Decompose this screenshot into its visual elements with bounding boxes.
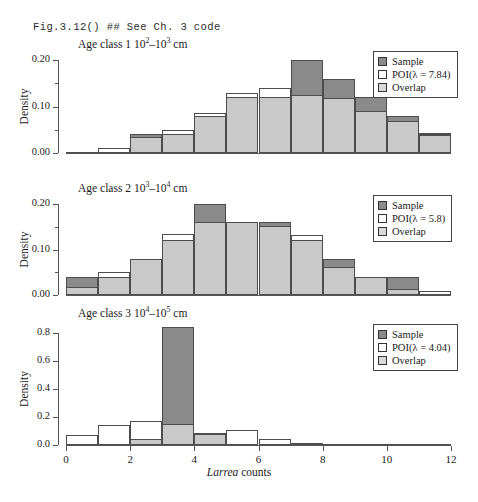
- y-axis-tick: [53, 153, 58, 154]
- legend-swatch-sample-icon: [378, 201, 387, 210]
- histogram-bar-overlap: [259, 97, 291, 153]
- x-axis-tick-label: 4: [174, 453, 214, 465]
- legend-item-label: POI(λ = 7.84): [392, 69, 451, 80]
- legend-item: Overlap: [378, 81, 451, 94]
- histogram-bar-overlap: [194, 116, 226, 153]
- histogram-bar-overlap: [162, 424, 194, 445]
- chart-panel-age-class-3: Age class 3 104–105 cmDensity0.00.20.40.…: [0, 305, 478, 470]
- x-axis-tick: [194, 446, 195, 451]
- y-axis-tick: [53, 295, 58, 296]
- legend-swatch-poi-icon: [378, 343, 387, 352]
- y-axis-tick-label: 0.10: [6, 243, 50, 254]
- histogram-bar-poi: [98, 425, 130, 445]
- legend-swatch-overlap-icon: [378, 356, 387, 365]
- legend-item: Sample: [378, 55, 451, 68]
- y-axis-minor-tick: [55, 227, 58, 228]
- y-axis-tick: [53, 417, 58, 418]
- legend: SamplePOI(λ = 5.8)Overlap: [373, 195, 452, 242]
- histogram-bar-overlap: [323, 267, 355, 295]
- legend-item: POI(λ = 5.8): [378, 212, 445, 225]
- legend-item-label: Overlap: [392, 355, 426, 366]
- legend-item-label: POI(λ = 5.8): [392, 213, 445, 224]
- y-axis-minor-tick: [55, 272, 58, 273]
- x-axis-title: Larrea counts: [0, 466, 478, 478]
- histogram-bar-overlap: [66, 287, 98, 295]
- histogram-bar-overlap: [98, 277, 130, 295]
- y-axis-minor-tick: [55, 130, 58, 131]
- y-axis-tick-label: 0.6: [6, 354, 50, 365]
- histogram-bar-overlap: [355, 111, 387, 153]
- x-axis-tick: [130, 446, 131, 451]
- legend: SamplePOI(λ = 7.84)Overlap: [373, 51, 458, 98]
- y-axis-tick-label: 0.00: [6, 288, 50, 299]
- legend-item-label: Overlap: [392, 226, 426, 237]
- legend-item-label: POI(λ = 4.04): [392, 342, 451, 353]
- code-header-text: Fig.3.12() ## See Ch. 3 code: [33, 21, 221, 33]
- histogram-bar-poi: [66, 435, 98, 445]
- y-axis-tick-label: 0.20: [6, 53, 50, 64]
- histogram-bar-overlap: [194, 222, 226, 295]
- x-axis-tick-label: 0: [46, 453, 86, 465]
- histogram-bar-overlap: [259, 226, 291, 295]
- y-axis-tick: [53, 204, 58, 205]
- histogram-bar-overlap: [419, 135, 451, 153]
- panel-title: Age class 1 102–103 cm: [78, 38, 187, 50]
- histogram-bar-poi: [226, 430, 258, 445]
- x-axis-tick-label: 2: [110, 453, 150, 465]
- y-axis-tick: [53, 445, 58, 446]
- x-axis-title-rest: counts: [238, 466, 271, 478]
- y-axis-tick: [53, 389, 58, 390]
- y-axis-tick-label: 0.2: [6, 410, 50, 421]
- y-axis-tick-label: 0.00: [6, 146, 50, 157]
- y-axis-tick: [53, 333, 58, 334]
- legend-item: Overlap: [378, 354, 451, 367]
- y-axis-tick: [53, 250, 58, 251]
- histogram-bar-overlap: [194, 434, 226, 445]
- x-axis-line: [66, 295, 451, 296]
- histogram-bar-overlap: [355, 277, 387, 295]
- histogram-bar-overlap: [323, 98, 355, 153]
- legend-item-label: Overlap: [392, 82, 426, 93]
- panel-title: Age class 2 103–104 cm: [78, 182, 187, 194]
- legend-item: Sample: [378, 199, 445, 212]
- histogram-bar-overlap: [226, 97, 258, 153]
- legend: SamplePOI(λ = 4.04)Overlap: [373, 324, 458, 371]
- x-axis-tick: [387, 446, 388, 451]
- histogram-bar-overlap: [291, 95, 323, 153]
- x-axis-tick: [451, 446, 452, 451]
- x-axis-tick-label: 12: [431, 453, 471, 465]
- legend-item: POI(λ = 7.84): [378, 68, 451, 81]
- legend-swatch-poi-icon: [378, 214, 387, 223]
- y-axis-line: [58, 333, 59, 445]
- legend-swatch-overlap-icon: [378, 83, 387, 92]
- y-axis-line: [58, 60, 59, 153]
- histogram-bar-overlap: [387, 121, 419, 153]
- y-axis-tick: [53, 60, 58, 61]
- legend-item-label: Sample: [392, 56, 424, 67]
- legend-swatch-poi-icon: [378, 70, 387, 79]
- histogram-bar-overlap: [291, 240, 323, 295]
- legend-item: Overlap: [378, 225, 445, 238]
- legend-swatch-overlap-icon: [378, 227, 387, 236]
- x-axis-tick-label: 10: [367, 453, 407, 465]
- histogram-bar-overlap: [130, 259, 162, 295]
- y-axis-tick-label: 0.20: [6, 197, 50, 208]
- chart-panel-age-class-1: Age class 1 102–103 cmDensity0.000.100.2…: [0, 36, 478, 186]
- y-axis-line: [58, 204, 59, 295]
- y-axis-tick-label: 0.0: [6, 438, 50, 449]
- y-axis-tick-label: 0.10: [6, 100, 50, 111]
- x-axis-line: [66, 153, 451, 154]
- y-axis-tick-label: 0.4: [6, 382, 50, 393]
- legend-item-label: Sample: [392, 200, 424, 211]
- legend-item: POI(λ = 4.04): [378, 341, 451, 354]
- legend-swatch-sample-icon: [378, 57, 387, 66]
- y-axis-tick-label: 0.8: [6, 326, 50, 337]
- histogram-bar-overlap: [162, 134, 194, 153]
- y-axis-tick: [53, 361, 58, 362]
- x-axis-tick: [66, 446, 67, 451]
- panel-title: Age class 3 104–105 cm: [78, 307, 187, 319]
- x-axis-title-genus: Larrea: [207, 466, 239, 478]
- y-axis-tick: [53, 107, 58, 108]
- histogram-bar-overlap: [162, 240, 194, 295]
- x-axis-tick: [259, 446, 260, 451]
